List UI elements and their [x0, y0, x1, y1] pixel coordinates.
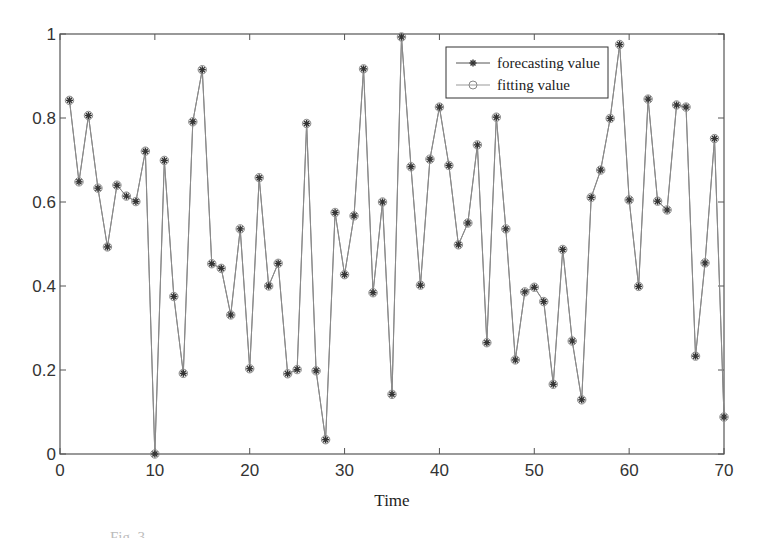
forecasting-point — [578, 396, 585, 403]
forecasting-point — [389, 391, 396, 398]
forecasting-point — [645, 96, 652, 103]
forecasting-point — [351, 212, 358, 219]
forecasting-point — [407, 163, 414, 170]
forecasting-point — [626, 196, 633, 203]
forecasting-point — [654, 198, 661, 205]
forecasting-point — [75, 178, 82, 185]
x-axis-title: Time — [374, 491, 409, 510]
forecasting-point — [218, 265, 225, 272]
forecasting-point — [426, 156, 433, 163]
forecasting-point — [512, 356, 519, 363]
forecasting-point — [445, 162, 452, 169]
x-tick-label: 50 — [525, 461, 544, 480]
forecasting-point — [180, 370, 187, 377]
forecasting-point — [142, 148, 149, 155]
forecasting-point — [502, 225, 509, 232]
forecasting-point — [559, 246, 566, 253]
forecasting-point — [588, 194, 595, 201]
x-axis: 010203040506070 — [55, 34, 733, 480]
forecasting-point — [455, 241, 462, 248]
forecasting-point — [360, 65, 367, 72]
forecasting-point — [474, 141, 481, 148]
forecasting-point — [341, 271, 348, 278]
figure-caption: Fig. 3 — [110, 526, 670, 538]
forecasting-point — [303, 120, 310, 127]
forecasting-point — [322, 436, 329, 443]
forecasting-point — [597, 167, 604, 174]
y-tick-label: 1 — [47, 25, 56, 44]
forecasting-point — [692, 353, 699, 360]
forecasting-point — [436, 104, 443, 111]
forecasting-point — [616, 41, 623, 48]
y-tick-label: 0 — [47, 445, 56, 464]
legend-label-forecasting: forecasting value — [497, 55, 600, 71]
asterisk-marker-icon — [470, 60, 477, 67]
y-tick-label: 0.6 — [32, 193, 56, 212]
forecasting-point — [66, 97, 73, 104]
forecasting-point — [227, 311, 234, 318]
x-tick-label: 40 — [430, 461, 449, 480]
forecasting-point — [379, 199, 386, 206]
forecasting-point — [569, 338, 576, 345]
forecasting-point — [208, 260, 215, 267]
forecasting-point — [275, 260, 282, 267]
x-tick-label: 60 — [620, 461, 639, 480]
forecasting-point — [464, 220, 471, 227]
forecasting-point — [123, 193, 130, 200]
x-tick-label: 10 — [145, 461, 164, 480]
y-tick-label: 0.2 — [32, 361, 56, 380]
x-tick-label: 70 — [715, 461, 734, 480]
forecasting-point — [417, 282, 424, 289]
forecasting-point — [85, 112, 92, 119]
x-tick-label: 0 — [55, 461, 64, 480]
forecasting-point — [673, 101, 680, 108]
forecasting-point — [284, 370, 291, 377]
forecasting-point — [246, 365, 253, 372]
forecasting-point — [294, 366, 301, 373]
forecasting-point — [189, 118, 196, 125]
forecasting-point — [521, 288, 528, 295]
forecasting-point — [483, 339, 490, 346]
series-line-forecasting — [69, 37, 724, 454]
forecasting-point — [332, 209, 339, 216]
forecasting-point — [702, 259, 709, 266]
forecasting-point — [398, 33, 405, 40]
forecasting-point — [550, 381, 557, 388]
line-chart: 010203040506070 00.20.40.60.81 Time fore… — [0, 0, 765, 538]
forecasting-point — [132, 198, 139, 205]
forecasting-point — [721, 414, 728, 421]
forecasting-point — [711, 135, 718, 142]
forecasting-point — [94, 185, 101, 192]
series-line-fitting — [69, 37, 724, 454]
x-tick-label: 30 — [335, 461, 354, 480]
forecasting-point — [370, 289, 377, 296]
y-tick-label: 0.4 — [32, 277, 56, 296]
forecasting-point — [313, 367, 320, 374]
forecasting-point — [265, 283, 272, 290]
forecasting-point — [161, 157, 168, 164]
forecasting-point — [199, 66, 206, 73]
forecasting-point — [104, 243, 111, 250]
forecasting-point — [493, 114, 500, 121]
forecasting-point — [237, 225, 244, 232]
forecasting-point — [151, 451, 158, 458]
legend: forecasting value fitting value — [446, 47, 608, 98]
forecasting-point — [170, 293, 177, 300]
forecasting-point — [607, 115, 614, 122]
legend-label-fitting: fitting value — [497, 77, 570, 93]
x-tick-label: 20 — [240, 461, 259, 480]
series-markers — [65, 33, 728, 458]
forecasting-point — [635, 283, 642, 290]
series-lines — [69, 37, 724, 454]
forecasting-point — [256, 174, 263, 181]
forecasting-point — [664, 206, 671, 213]
forecasting-point — [531, 284, 538, 291]
y-tick-label: 0.8 — [32, 109, 56, 128]
forecasting-point — [113, 182, 120, 189]
forecasting-point — [540, 298, 547, 305]
forecasting-point — [683, 104, 690, 111]
